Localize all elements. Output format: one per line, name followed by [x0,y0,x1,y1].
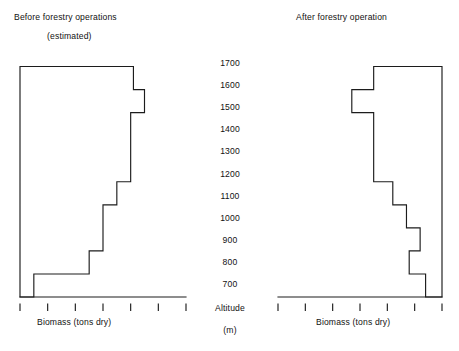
altitude-tick-1600: 1600 [206,80,254,90]
after-tick-label-20: 20 [383,314,393,315]
altitude-tick-1100: 1100 [206,191,254,201]
before-x-tick-group: 0102030405060 [18,304,191,316]
x-axis-label-before: Biomass (tons dry) [37,317,111,327]
after-tick-label-50: 50 [301,314,311,315]
before-tick-label-0: 0 [18,314,23,315]
before-tick-label-30: 30 [98,314,108,315]
after-step-path-group [352,67,442,298]
after-x-tick-group: 6050403020100 [273,304,444,316]
altitude-tick-900: 900 [206,235,254,245]
chart-before-svg: 0102030405060 [0,0,230,315]
before-tick-label-40: 40 [126,314,136,315]
altitude-tick-1700: 1700 [206,58,254,68]
altitude-axis-caption: Altitude [202,303,258,313]
altitude-tick-700: 700 [206,279,254,289]
altitude-axis-unit: (m) [202,325,258,335]
after-tick-label-40: 40 [328,314,338,315]
after-tick-label-0: 0 [440,314,445,315]
before-tick-label-50: 50 [154,314,164,315]
after-tick-label-60: 60 [273,314,283,315]
altitude-tick-800: 800 [206,257,254,267]
before-tick-label-60: 60 [181,314,191,315]
altitude-tick-1400: 1400 [206,124,254,134]
altitude-tick-1500: 1500 [206,102,254,112]
before-step-path-group [20,67,145,298]
figure-root: Before forestry operations (estimated) A… [0,0,459,351]
chart-before: 0102030405060 [0,0,230,315]
altitude-tick-1000: 1000 [206,213,254,223]
before-tick-label-20: 20 [71,314,81,315]
before-step-outline [20,67,145,298]
altitude-tick-1300: 1300 [206,146,254,156]
chart-after-svg: 6050403020100 [255,0,459,315]
before-tick-label-10: 10 [43,314,53,315]
chart-after: 6050403020100 [255,0,459,315]
x-axis-label-after: Biomass (tons dry) [316,317,390,327]
altitude-tick-1200: 1200 [206,169,254,179]
after-step-outline [352,67,442,298]
after-tick-label-10: 10 [410,314,420,315]
after-tick-label-30: 30 [355,314,365,315]
